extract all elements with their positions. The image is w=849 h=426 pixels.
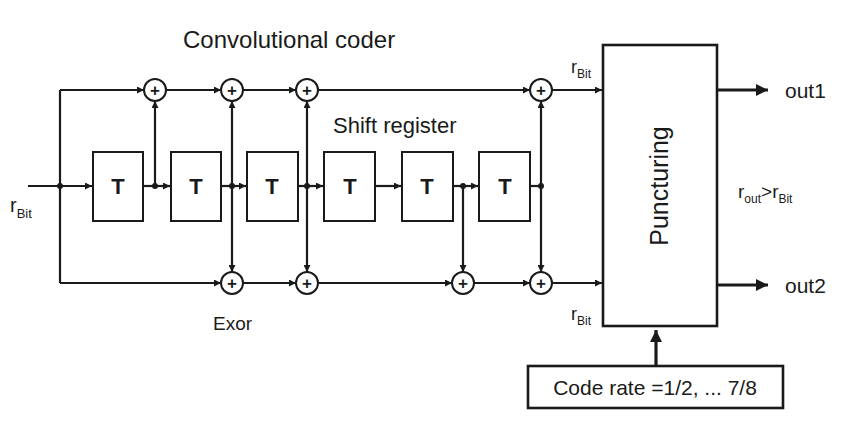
svg-text:+: + <box>302 274 312 293</box>
rate-relation-label: rout>rBit <box>738 181 793 206</box>
puncturing-input-top-rate: rBit <box>571 57 592 81</box>
shift-register-label: Shift register <box>333 113 457 138</box>
svg-text:+: + <box>536 274 546 293</box>
svg-text:+: + <box>227 81 237 100</box>
svg-text:+: + <box>458 274 468 293</box>
puncturing-input-bottom-rate: rBit <box>571 304 592 328</box>
svg-text:T: T <box>498 174 512 199</box>
svg-text:+: + <box>227 274 237 293</box>
out2-label: out2 <box>785 274 826 297</box>
xor-adder-icon: + <box>452 272 474 294</box>
input-rate-label: rBit <box>10 194 32 221</box>
svg-text:+: + <box>302 81 312 100</box>
register-cell-5: T <box>402 152 453 221</box>
svg-text:Code rate =1/2, ... 7/8: Code rate =1/2, ... 7/8 <box>553 376 757 399</box>
register-cell-2: T <box>171 152 221 221</box>
xor-adder-icon: + <box>296 79 318 101</box>
svg-text:T: T <box>420 174 434 199</box>
svg-text:+: + <box>150 81 160 100</box>
register-cell-3: T <box>247 152 298 221</box>
diagram-title: Convolutional coder <box>183 26 395 53</box>
exor-label: Exor <box>213 313 253 334</box>
svg-text:T: T <box>111 174 125 199</box>
xor-adder-icon: + <box>221 79 243 101</box>
output-1: out1 <box>717 79 826 102</box>
out1-label: out1 <box>785 79 826 102</box>
output-2: out2 <box>717 274 826 297</box>
svg-text:T: T <box>343 174 357 199</box>
svg-text:T: T <box>189 174 203 199</box>
register-cell-4: T <box>324 152 375 221</box>
puncturing-block: Puncturing <box>603 45 717 326</box>
svg-text:+: + <box>536 81 546 100</box>
xor-adder-icon: + <box>144 79 166 101</box>
svg-text:rBit: rBit <box>10 194 32 221</box>
xor-adder-icon: + <box>530 79 552 101</box>
xor-adder-icon: + <box>296 272 318 294</box>
xor-adder-icon: + <box>221 272 243 294</box>
code-rate-box: Code rate =1/2, ... 7/8 <box>528 366 783 408</box>
svg-text:Puncturing: Puncturing <box>645 126 673 246</box>
convolutional-coder-diagram: Convolutional coder Shift register Exor … <box>0 0 849 426</box>
junction-dot <box>57 183 63 189</box>
svg-text:T: T <box>265 174 279 199</box>
xor-adder-icon: + <box>530 272 552 294</box>
register-cell-1: T <box>93 152 143 221</box>
register-cell-6: T <box>479 152 530 221</box>
